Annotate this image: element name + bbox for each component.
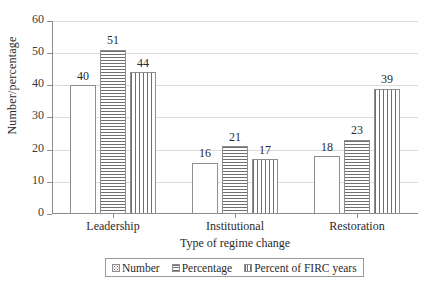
bar-wrap-institutional-number: 16 (192, 21, 218, 214)
x-tick-leadership (52, 214, 174, 218)
y-tick-label-30: 30 (32, 109, 44, 121)
x-label-leadership: Leadership (52, 219, 174, 234)
bar-group-institutional: 16 21 17 (174, 21, 296, 214)
bar-value-institutional-percentage: 21 (229, 131, 241, 143)
bar-value-leadership-percentage: 51 (107, 34, 119, 46)
bar-wrap-restoration-percentage: 23 (344, 21, 370, 214)
bar-value-restoration-number: 18 (321, 141, 333, 153)
bar-wrap-restoration-number: 18 (314, 21, 340, 214)
bar-value-restoration-percentage: 23 (351, 124, 363, 136)
bar-value-leadership-firc: 44 (137, 57, 149, 69)
legend-swatch-firc-icon (244, 264, 252, 272)
legend-label-percentage: Percentage (182, 262, 232, 274)
y-tick-label-0: 0 (38, 206, 44, 218)
legend-swatch-percentage-icon (172, 264, 180, 272)
bar-leadership-number[interactable] (70, 85, 96, 214)
x-tick-institutional (174, 214, 296, 218)
cropped-caption-remnant (20, 0, 350, 6)
bar-value-leadership-number: 40 (77, 70, 89, 82)
bar-wrap-leadership-firc: 44 (130, 21, 156, 214)
chart-legend: Number Percentage Percent of FIRC years (105, 258, 364, 277)
legend-label-firc: Percent of FIRC years (254, 262, 357, 274)
x-tick-mark-institutional (235, 214, 236, 218)
bar-wrap-leadership-percentage: 51 (100, 21, 126, 214)
x-tick-mark-restoration (357, 214, 358, 218)
legend-item-percentage[interactable]: Percentage (172, 262, 232, 274)
legend-item-number[interactable]: Number (112, 262, 160, 274)
bar-restoration-percentage[interactable] (344, 140, 370, 214)
bar-value-restoration-firc: 39 (381, 73, 393, 85)
legend-swatch-number-icon (112, 264, 120, 272)
bar-value-institutional-number: 16 (199, 147, 211, 159)
x-label-institutional: Institutional (174, 219, 296, 234)
legend-item-firc[interactable]: Percent of FIRC years (244, 262, 357, 274)
bar-wrap-institutional-firc: 17 (252, 21, 278, 214)
legend-label-number: Number (122, 262, 160, 274)
x-tick-mark-leadership (113, 214, 114, 218)
y-tick-label-10: 10 (32, 174, 44, 186)
x-tick-restoration (296, 214, 418, 218)
bar-wrap-leadership-number: 40 (70, 21, 96, 214)
bar-value-institutional-firc: 17 (259, 144, 271, 156)
y-tick-label-50: 50 (32, 45, 44, 57)
y-tick-label-60: 60 (32, 13, 44, 25)
bar-group-restoration: 18 23 39 (296, 21, 418, 214)
bar-wrap-institutional-percentage: 21 (222, 21, 248, 214)
bar-institutional-number[interactable] (192, 163, 218, 215)
bar-institutional-firc[interactable] (252, 159, 278, 214)
x-axis-label: Type of regime change (52, 236, 418, 251)
y-tick-label-40: 40 (32, 77, 44, 89)
bar-institutional-percentage[interactable] (222, 146, 248, 214)
bar-group-leadership: 40 51 44 (52, 21, 174, 214)
bar-groups: 40 51 44 16 21 17 (52, 21, 418, 214)
bar-chart-figure: Number/percentage 0 10 20 30 40 50 60 (0, 0, 434, 294)
bar-wrap-restoration-firc: 39 (374, 21, 400, 214)
y-axis-ticks: 0 10 20 30 40 50 60 (0, 21, 52, 214)
x-axis-category-labels: Leadership Institutional Restoration (52, 219, 418, 234)
x-axis-category-ticks (52, 214, 418, 218)
y-tick-label-20: 20 (32, 142, 44, 154)
x-label-restoration: Restoration (296, 219, 418, 234)
bar-leadership-firc[interactable] (130, 72, 156, 214)
bar-restoration-number[interactable] (314, 156, 340, 214)
bar-restoration-firc[interactable] (374, 89, 400, 215)
bar-leadership-percentage[interactable] (100, 50, 126, 214)
